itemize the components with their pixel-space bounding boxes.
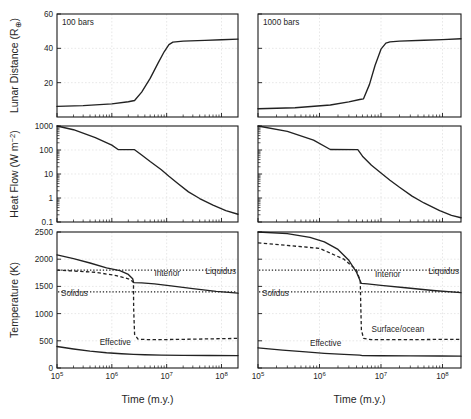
- y-axis-title: Heat Flow (W m−2): [8, 130, 20, 217]
- y-tick-label: 1000: [35, 122, 54, 131]
- x-tick-exponent: 7: [170, 371, 174, 377]
- x-tick-exponent: 6: [322, 371, 326, 377]
- panel-frame: [57, 14, 238, 117]
- x-tick-label: 105: [252, 371, 265, 381]
- curve-effective: [57, 347, 238, 356]
- y-axis-title-suffix: ): [8, 130, 20, 134]
- y-axis-title-sub: ⊕: [14, 21, 23, 28]
- label-liquidus: Liquidus: [429, 267, 460, 276]
- x-axis-title-col2: Time (m.y.): [334, 393, 386, 405]
- x-tick-label: 106: [106, 371, 119, 381]
- curve-heat-flow: [57, 126, 238, 214]
- x-tick-label: 107: [375, 371, 388, 381]
- curve-lunar-distance: [57, 39, 238, 106]
- y-tick-label: 2000: [35, 255, 54, 264]
- y-axis-title-group: Lunar Distance (R⊕): [8, 18, 23, 113]
- x-tick-exponent: 5: [261, 371, 265, 377]
- curve-surface-ocean: [57, 270, 238, 340]
- panel-frame: [57, 232, 238, 368]
- panel-heat-flow-col1: 10001001010.1: [35, 122, 238, 227]
- y-tick-label: 10: [44, 170, 54, 179]
- y-tick-label: 1500: [35, 282, 54, 291]
- y-axis-title-group: Temperature (K): [8, 262, 20, 338]
- multi-panel-plot: 604020100 bars1000 bars10001001010.12500…: [0, 0, 471, 419]
- curve-lunar-distance: [258, 39, 461, 109]
- x-tick-exponent: 5: [60, 371, 64, 377]
- curve-interior: [258, 232, 461, 293]
- label-interior: Interior: [375, 270, 401, 279]
- figure-container: 604020100 bars1000 bars10001001010.12500…: [0, 0, 471, 419]
- label-liquidus: Liquidus: [206, 267, 237, 276]
- plot-root: 604020100 bars1000 bars10001001010.12500…: [8, 10, 461, 405]
- y-axis-title-group: Heat Flow (W m−2): [8, 130, 20, 217]
- label-solidus: Solidus: [61, 289, 88, 298]
- label-effective: Effective: [310, 339, 342, 348]
- label-interior: Interior: [154, 269, 180, 278]
- y-axis-title-sup: −2: [8, 134, 17, 143]
- y-axis-title: Temperature (K): [8, 262, 20, 338]
- panel-frame: [258, 14, 461, 117]
- x-tick-label: 107: [160, 371, 173, 381]
- x-tick-label: 106: [313, 371, 326, 381]
- label-surface-ocean: Surface/ocean: [371, 325, 424, 334]
- panel-frame: [258, 232, 461, 368]
- x-tick-exponent: 6: [115, 371, 119, 377]
- panel-lunar-distance-col1: 604020100 bars: [44, 10, 238, 117]
- x-axis-title-col1: Time (m.y.): [122, 393, 174, 405]
- x-tick-label: 108: [436, 371, 449, 381]
- x-tick-label: 105: [51, 371, 64, 381]
- panel-heat-flow-col2: [258, 126, 461, 222]
- panel-tag-1: 100 bars: [62, 18, 94, 27]
- panel-temperature-col1: 25002000150010005000105106107108Liquidus…: [35, 228, 238, 381]
- y-axis-title: Lunar Distance (R⊕): [8, 18, 23, 113]
- y-tick-label: 500: [39, 337, 53, 346]
- y-tick-label: 60: [44, 10, 54, 19]
- x-tick-exponent: 7: [384, 371, 388, 377]
- y-tick-label: 1: [48, 194, 53, 203]
- label-solidus: Solidus: [262, 289, 289, 298]
- y-tick-label: 0.1: [42, 218, 54, 227]
- x-tick-exponent: 8: [224, 371, 228, 377]
- y-tick-label: 20: [44, 79, 54, 88]
- panel-tag-2: 1000 bars: [263, 18, 299, 27]
- y-axis-title-suffix: ): [8, 18, 20, 22]
- x-tick-label: 108: [215, 371, 228, 381]
- x-tick-exponent: 8: [445, 371, 449, 377]
- panel-lunar-distance-col2: 1000 bars: [258, 14, 461, 117]
- y-tick-label: 40: [44, 44, 54, 53]
- curve-heat-flow: [258, 126, 461, 218]
- y-tick-label: 100: [39, 146, 53, 155]
- panel-temperature-col2: 105106107108LiquidusSolidusInteriorEffec…: [252, 232, 461, 381]
- panel-frame: [57, 126, 238, 222]
- curve-effective: [258, 348, 461, 356]
- y-tick-label: 1000: [35, 310, 54, 319]
- label-effective: Effective: [100, 338, 132, 347]
- y-tick-label: 2500: [35, 228, 54, 237]
